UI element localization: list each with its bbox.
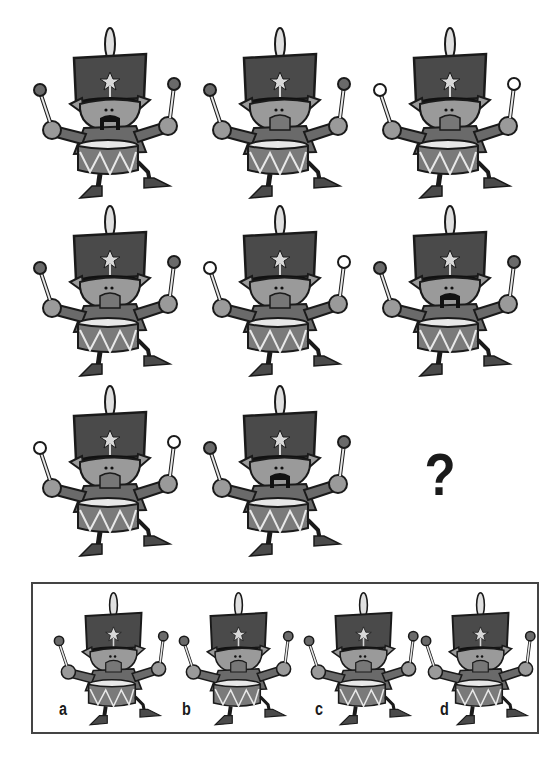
drummer-figure — [200, 22, 360, 202]
grid-cell-r1c3 — [370, 22, 530, 202]
drummer-figure — [200, 380, 360, 560]
stick-tip-left — [34, 84, 46, 96]
option-d[interactable]: d — [418, 584, 543, 734]
drummer-figure — [418, 588, 543, 728]
drummer-figure — [51, 588, 176, 728]
answer-options-box: a b c d — [31, 582, 539, 734]
question-mark: ? — [415, 440, 466, 510]
grid-cell-r3c1 — [30, 380, 190, 560]
stick-tip-right — [168, 78, 180, 90]
drummer-figure — [370, 22, 530, 202]
grid-cell-r1c1 — [30, 22, 190, 202]
drummer-figure — [30, 22, 190, 202]
grid-cell-r2c1 — [30, 200, 190, 380]
drummer-figure — [30, 380, 190, 560]
option-label: d — [440, 699, 449, 720]
grid-cell-r3c2 — [200, 380, 360, 560]
option-a[interactable]: a — [51, 584, 176, 734]
grid-cell-r1c2 — [200, 22, 360, 202]
drummer-figure — [176, 588, 301, 728]
option-label: c — [315, 699, 323, 720]
option-label: a — [59, 699, 67, 720]
grid-cell-r2c2 — [200, 200, 360, 380]
option-label: b — [182, 699, 191, 720]
drummer-figure — [200, 200, 360, 380]
drummer-figure — [30, 200, 190, 380]
option-c[interactable]: c — [301, 584, 426, 734]
grid-cell-r2c3 — [370, 200, 530, 380]
option-b[interactable]: b — [176, 584, 301, 734]
drummer-figure — [370, 200, 530, 380]
